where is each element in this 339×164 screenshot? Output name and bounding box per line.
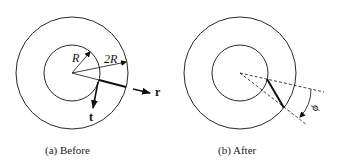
caption-before: (a) Before (45, 144, 90, 157)
radial-vector-label: r (155, 85, 161, 99)
angle-arc-arrow (300, 89, 311, 117)
deformed-line-segment (267, 79, 284, 108)
tangential-vector-arrow (93, 82, 98, 108)
panel-before: R 2R r t (a) Before (16, 17, 161, 157)
caption-after: (b) After (218, 144, 257, 157)
material-line-segment (99, 80, 126, 87)
inner-radius-label: R (71, 51, 80, 65)
radial-vector-arrow (133, 89, 150, 93)
figure-canvas: R 2R r t (a) Before ϕ (b) After (0, 0, 339, 164)
outer-radius-label: 2R (104, 52, 118, 66)
reference-line (72, 73, 99, 80)
panel-after: ϕ (b) After (184, 17, 324, 157)
angle-label: ϕ (307, 103, 320, 113)
tangential-vector-label: t (89, 110, 93, 124)
